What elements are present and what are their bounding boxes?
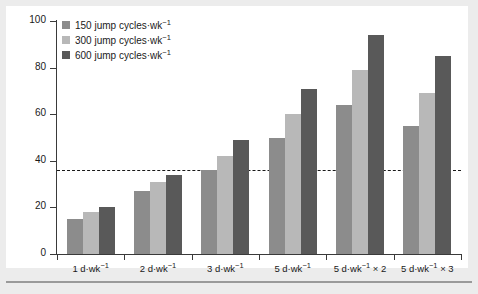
chart-legend: 150 jump cycles·wk−1300 jump cycles·wk−1…	[62, 18, 232, 63]
y-tick-label: 40	[10, 154, 46, 165]
bar-group-3-series-1	[201, 170, 217, 254]
legend-swatch-300	[62, 36, 70, 44]
bar-group-6-series-2	[419, 93, 435, 254]
bar-group-2-series-3	[166, 175, 182, 254]
bar-group-1-series-2	[83, 212, 99, 254]
bar-group-5-series-3	[368, 35, 384, 254]
bar-group-4-series-1	[269, 138, 285, 255]
figure-page: Osteogeneic index 020406080100 1 d·wk−12…	[0, 0, 478, 294]
x-tick-label-6: 5 d·wk−1 × 3	[388, 263, 467, 274]
x-tick-mark-3	[192, 255, 193, 260]
x-tick-mark-end	[461, 255, 462, 260]
bar-group-5-series-2	[352, 70, 368, 254]
bar-group-1-series-1	[67, 219, 83, 254]
x-tick-mark-2	[124, 255, 125, 260]
x-tick-mark-6	[394, 255, 395, 260]
bar-group-6-series-3	[435, 56, 451, 254]
bar-group-4-series-3	[301, 89, 317, 254]
legend-label-1: 150 jump cycles·wk−1	[75, 20, 171, 31]
legend-swatch-150	[62, 21, 70, 29]
y-tick-label: 100	[10, 14, 46, 25]
bar-group-3-series-3	[233, 140, 249, 254]
legend-item-3: 600 jump cycles·wk−1	[62, 48, 232, 62]
x-tick-mark-5	[326, 255, 327, 260]
legend-item-2: 300 jump cycles·wk−1	[62, 33, 232, 47]
y-tick-label: 20	[10, 200, 46, 211]
bar-group-3-series-2	[217, 156, 233, 254]
bar-group-1-series-3	[99, 207, 115, 254]
legend-swatch-600	[62, 51, 70, 59]
legend-label-2: 300 jump cycles·wk−1	[75, 35, 171, 46]
y-tick-label: 60	[10, 107, 46, 118]
x-tick-mark-1	[57, 255, 58, 260]
bottom-rule-divider	[6, 281, 472, 283]
bar-group-4-series-2	[285, 114, 301, 254]
legend-item-1: 150 jump cycles·wk−1	[62, 18, 232, 32]
y-tick-mark	[50, 21, 56, 22]
bar-group-6-series-1	[403, 126, 419, 254]
y-tick-label: 0	[10, 247, 46, 258]
bar-group-5-series-1	[336, 105, 352, 254]
bar-group-2-series-2	[150, 182, 166, 254]
bar-group-2-series-1	[134, 191, 150, 254]
y-tick-mark	[50, 68, 56, 69]
y-tick-mark	[50, 114, 56, 115]
y-tick-mark	[50, 207, 56, 208]
y-tick-label: 80	[10, 61, 46, 72]
y-tick-mark	[50, 254, 56, 255]
x-tick-mark-4	[259, 255, 260, 260]
y-tick-mark	[50, 161, 56, 162]
legend-label-3: 600 jump cycles·wk−1	[75, 50, 171, 61]
